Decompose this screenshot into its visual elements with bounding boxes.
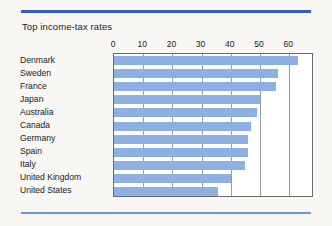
category-label: United Kingdom	[6, 172, 106, 182]
bar	[114, 69, 278, 78]
category-label: United States	[6, 185, 106, 195]
top-rule	[21, 10, 311, 13]
bar	[114, 148, 248, 157]
category-label: Italy	[6, 159, 106, 169]
bar	[114, 174, 231, 183]
chart-figure: Top income-tax rates 0102030405060 Denma…	[0, 0, 332, 226]
x-axis-tick-labels: 0102030405060	[0, 39, 332, 51]
category-label: Australia	[6, 107, 106, 117]
category-label: Germany	[6, 133, 106, 143]
bar	[114, 82, 276, 91]
plot-area	[113, 53, 313, 197]
category-label: Sweden	[6, 68, 106, 78]
category-labels: DenmarkSwedenFranceJapanAustraliaCanadaG…	[0, 53, 112, 197]
bar	[114, 135, 248, 144]
x-tick-label: 50	[254, 39, 263, 49]
bar	[114, 187, 218, 196]
category-label: Spain	[6, 146, 106, 156]
x-tick-label: 10	[137, 39, 146, 49]
bottom-rule	[21, 212, 311, 214]
x-tick-label: 30	[196, 39, 205, 49]
category-label: Japan	[6, 94, 106, 104]
gridline	[289, 54, 290, 196]
x-tick-label: 60	[283, 39, 292, 49]
chart-title: Top income-tax rates	[22, 21, 112, 32]
bar	[114, 122, 251, 131]
x-tick-label: 40	[225, 39, 234, 49]
bar	[114, 161, 245, 170]
category-label: France	[6, 81, 106, 91]
x-tick-label: 20	[167, 39, 176, 49]
bar	[114, 108, 257, 117]
bar	[114, 56, 298, 65]
bar	[114, 95, 260, 104]
category-label: Canada	[6, 120, 106, 130]
category-label: Denmark	[6, 55, 106, 65]
x-tick-label: 0	[111, 39, 116, 49]
